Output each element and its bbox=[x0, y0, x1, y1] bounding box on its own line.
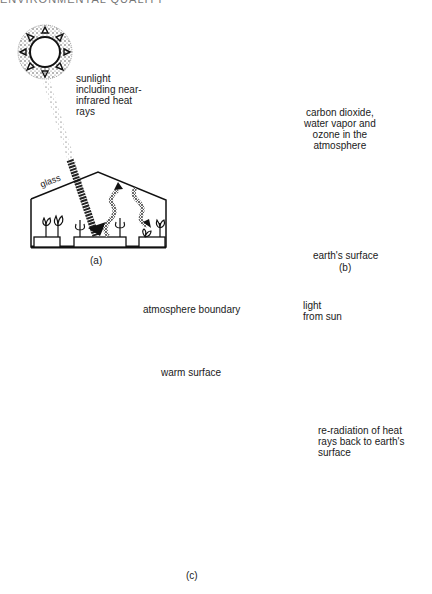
greenhouse-effect-diagram bbox=[0, 0, 432, 594]
sun-icon bbox=[18, 25, 72, 79]
label-light-from-sun: light from sun bbox=[303, 300, 342, 322]
caption-c: (c) bbox=[186, 570, 198, 581]
label-sunlight: sunlight including near- infrared heat r… bbox=[76, 73, 142, 117]
caption-a: (a) bbox=[90, 255, 102, 266]
label-earths-surface: earth's surface bbox=[313, 250, 378, 261]
label-atmosphere-boundary: atmosphere boundary bbox=[143, 304, 240, 315]
label-atmosphere-gases: carbon dioxide, water vapor and ozone in… bbox=[304, 107, 376, 151]
caption-b: (b) bbox=[339, 262, 351, 273]
panel-a-greenhouse bbox=[18, 25, 166, 247]
label-warm-surface: warm surface bbox=[161, 367, 221, 378]
label-reradiation: re-radiation of heat rays back to earth'… bbox=[318, 425, 404, 458]
